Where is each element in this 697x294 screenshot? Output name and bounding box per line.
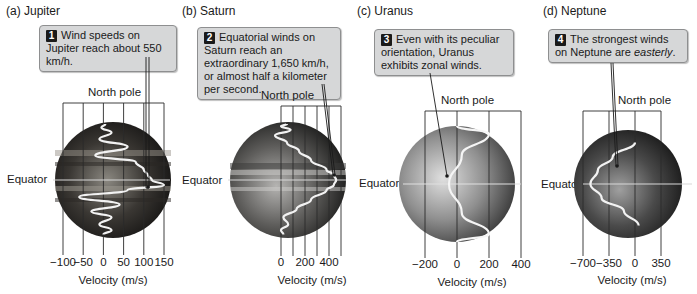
tick-label: −200: [412, 258, 438, 270]
tick-label: 50: [117, 256, 130, 268]
uranus-callout-dot: [445, 174, 449, 178]
planet-wind-diagram: [0, 0, 697, 294]
tick-label: 0: [454, 258, 460, 270]
uranus-panel: [399, 73, 521, 258]
tick-label: 150: [154, 256, 173, 268]
tick-label: −350: [596, 257, 622, 269]
tick-label: 0: [100, 256, 106, 268]
velocity-label-jupiter: Velocity (m/s): [78, 274, 147, 286]
neptune-callout-dot: [615, 164, 619, 168]
tick-label: −50: [73, 256, 93, 268]
velocity-label-neptune: Velocity (m/s): [597, 274, 666, 286]
saturn-panel: [228, 84, 346, 256]
tick-label: 350: [651, 257, 670, 269]
tick-label: 200: [479, 258, 498, 270]
tick-label: 400: [511, 258, 530, 270]
tick-label: −100: [50, 256, 76, 268]
tick-label: 400: [319, 256, 338, 268]
tick-label: 0: [278, 256, 284, 268]
jupiter-panel: [53, 57, 171, 255]
tick-label: 200: [295, 256, 314, 268]
velocity-label-uranus: Velocity (m/s): [437, 276, 506, 288]
velocity-label-saturn: Velocity (m/s): [277, 274, 346, 286]
jupiter-callout-dot: [146, 185, 150, 189]
tick-label: 100: [134, 256, 153, 268]
neptune-panel: [574, 63, 692, 256]
saturn-callout-dot: [332, 173, 336, 177]
tick-label: −700: [570, 257, 596, 269]
tick-label: 0: [632, 257, 638, 269]
